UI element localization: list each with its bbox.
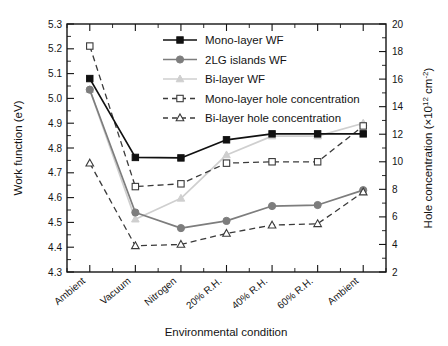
y-tick-label: 4.4 xyxy=(48,242,62,253)
y-tick-label: 4.5 xyxy=(48,217,62,228)
data-point-marker xyxy=(223,217,230,224)
y-tick-label: 4.6 xyxy=(48,192,62,203)
work-function-line-chart: 4.34.44.54.64.74.84.95.05.15.25.3 246810… xyxy=(0,0,448,346)
svg-text:Hole concentration (×1012 cm-2: Hole concentration (×1012 cm-2) xyxy=(421,67,434,228)
y2-tick-label: 20 xyxy=(392,19,404,30)
data-point-marker xyxy=(176,56,183,63)
y2-title-part1: Hole concentration (×10 xyxy=(422,106,434,228)
data-point-marker xyxy=(223,160,229,166)
y2-tick-label: 14 xyxy=(392,101,404,112)
data-point-marker xyxy=(360,131,366,137)
data-point-marker xyxy=(86,86,93,93)
legend-label: 2LG islands WF xyxy=(205,54,287,66)
y-tick-label: 4.3 xyxy=(48,267,62,278)
data-point-marker xyxy=(177,225,184,232)
data-point-marker xyxy=(360,123,366,129)
data-point-marker xyxy=(177,37,183,43)
y-tick-label: 4.9 xyxy=(48,118,62,129)
legend-label: Mono-layer hole concentration xyxy=(205,93,360,105)
data-point-marker xyxy=(177,95,183,101)
y2-tick-label: 16 xyxy=(392,74,404,85)
data-point-marker xyxy=(314,201,321,208)
y2-tick-label: 2 xyxy=(392,267,398,278)
data-point-marker xyxy=(178,181,184,187)
y2-tick-label: 18 xyxy=(392,46,404,57)
y2-tick-label: 6 xyxy=(392,211,398,222)
x-axis-title: Environmental condition xyxy=(165,326,288,338)
legend-label: Bi-layer hole concentration xyxy=(205,112,341,124)
y-tick-label: 5.1 xyxy=(48,68,62,79)
data-point-marker xyxy=(269,131,275,137)
y2-title-part3: ) xyxy=(422,67,434,71)
y2-title-part2: cm xyxy=(422,79,434,98)
y-tick-label: 5.0 xyxy=(48,93,62,104)
y-tick-label: 5.3 xyxy=(48,19,62,30)
data-point-marker xyxy=(87,75,93,81)
y-axis-title: Work function (eV) xyxy=(12,100,24,195)
chart-figure: 4.34.44.54.64.74.84.95.05.15.25.3 246810… xyxy=(0,0,448,346)
data-point-marker xyxy=(268,202,275,209)
data-point-marker xyxy=(132,209,139,216)
y2-tick-label: 4 xyxy=(392,239,398,250)
y-tick-label: 4.7 xyxy=(48,167,62,178)
data-point-marker xyxy=(132,183,138,189)
y2-tick-label: 10 xyxy=(392,156,404,167)
data-point-marker xyxy=(132,154,138,160)
y2-axis-title: Hole concentration (×1012 cm-2) xyxy=(421,67,434,228)
data-point-marker xyxy=(223,137,229,143)
legend-label: Bi-layer WF xyxy=(205,73,265,85)
y-tick-label: 4.8 xyxy=(48,143,62,154)
data-point-marker xyxy=(314,131,320,137)
data-point-marker xyxy=(87,43,93,49)
data-point-marker xyxy=(178,155,184,161)
legend-label: Mono-layer WF xyxy=(205,34,284,46)
data-point-marker xyxy=(269,159,275,165)
y-tick-label: 5.2 xyxy=(48,43,62,54)
data-point-marker xyxy=(314,159,320,165)
y2-tick-label: 8 xyxy=(392,184,398,195)
y2-tick-label: 12 xyxy=(392,129,404,140)
